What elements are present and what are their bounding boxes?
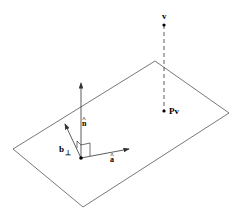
diagram-canvas: v Pv ^ n ^ a b ⊥ <box>0 0 243 218</box>
point-pv <box>162 109 165 112</box>
a-vector-arrow <box>81 149 129 158</box>
label-n-hat: n <box>82 119 87 128</box>
label-pv: Pv <box>169 106 179 116</box>
right-angle-marker-a <box>81 143 90 156</box>
right-angle-marker-b <box>77 141 81 148</box>
label-v: v <box>162 11 167 21</box>
label-b-perp-sub: ⊥ <box>65 149 71 157</box>
label-b-perp: b <box>59 144 64 154</box>
plane <box>13 61 229 207</box>
label-a-hat: a <box>110 155 114 164</box>
origin-point <box>79 156 83 160</box>
point-v <box>162 23 165 26</box>
